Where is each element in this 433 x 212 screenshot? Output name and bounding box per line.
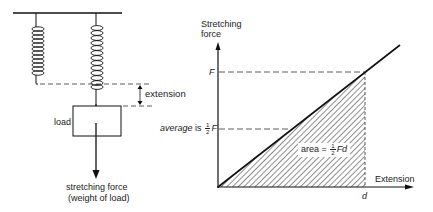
unstretched-spring <box>32 13 44 84</box>
fraction-denominator: 2 <box>330 150 335 156</box>
load-label: load <box>54 117 71 127</box>
average-F: F <box>211 123 217 133</box>
fraction-numerator: 1 <box>205 122 210 129</box>
load-box <box>73 106 121 136</box>
extension-arrow <box>138 85 143 105</box>
y-tick-F: F <box>209 67 215 77</box>
stretched-spring <box>91 13 103 106</box>
y-axis-label-line2: force <box>201 29 221 39</box>
y-axis-label-line1: Stretching <box>201 19 242 29</box>
average-annotation: average is 12F <box>160 122 217 135</box>
average-word: average <box>160 123 193 133</box>
half-fraction: 12 <box>205 122 210 135</box>
x-tick-d: d <box>362 191 367 201</box>
fraction-denominator: 2 <box>205 129 210 135</box>
area-annotation: area = 12Fd <box>301 143 347 156</box>
area-prefix: area = <box>301 144 329 154</box>
fraction-numerator: 1 <box>330 143 335 150</box>
area-Fd: Fd <box>337 144 348 154</box>
average-is: is <box>193 123 205 133</box>
extension-label: extension <box>145 89 186 99</box>
force-label-line2: (weight of load) <box>68 193 130 203</box>
x-axis-label: Extension <box>375 174 415 184</box>
area-half-fraction: 12 <box>330 143 335 156</box>
force-label-line1: stretching force <box>66 182 128 192</box>
